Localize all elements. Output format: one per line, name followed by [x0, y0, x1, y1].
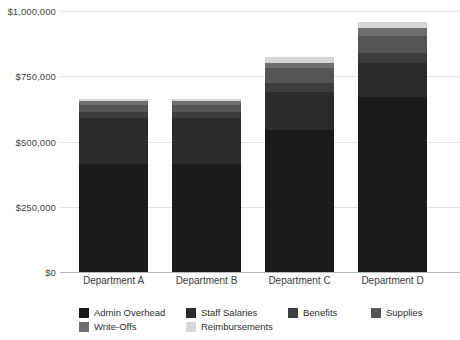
legend-swatch-icon: [186, 322, 196, 332]
bar-segment-write-offs[interactable]: [358, 28, 427, 36]
bar-segment-supplies[interactable]: [172, 105, 241, 111]
bar-segment-write-offs[interactable]: [265, 63, 334, 68]
legend-label: Admin Overhead: [94, 308, 165, 318]
bar-segment-admin-overhead[interactable]: [172, 164, 241, 272]
legend-item-staff-salaries[interactable]: Staff Salaries: [186, 307, 257, 319]
bar-segment-reimbursements[interactable]: [265, 57, 334, 63]
bar-segment-staff-salaries[interactable]: [79, 118, 148, 164]
legend-item-admin-overhead[interactable]: Admin Overhead: [79, 307, 165, 319]
y-axis-labels: $0$250,000$500,000$750,000$1,000,000: [0, 0, 56, 340]
bar-segment-benefits[interactable]: [358, 53, 427, 63]
x-axis-label-department-d: Department D: [338, 275, 448, 286]
gridline: [60, 11, 460, 12]
legend-label: Supplies: [386, 308, 422, 318]
bar-segment-benefits[interactable]: [172, 112, 241, 119]
bar-segment-benefits[interactable]: [79, 112, 148, 119]
bar-segment-supplies[interactable]: [79, 105, 148, 111]
plot-area: [60, 11, 460, 272]
x-axis-baseline: [60, 272, 460, 273]
y-axis-tick-label: $1,000,000: [7, 6, 56, 17]
legend-swatch-icon: [186, 308, 196, 318]
bar-segment-admin-overhead[interactable]: [358, 97, 427, 272]
legend-label: Reimbursements: [201, 322, 273, 332]
y-axis-tick-label: $750,000: [16, 71, 56, 82]
legend-swatch-icon: [288, 308, 298, 318]
bar-segment-write-offs[interactable]: [172, 101, 241, 106]
legend-item-write-offs[interactable]: Write-Offs: [79, 321, 136, 333]
bar-segment-benefits[interactable]: [265, 83, 334, 92]
legend-label: Write-Offs: [94, 322, 136, 332]
bar-segment-staff-salaries[interactable]: [172, 118, 241, 164]
stacked-bar-chart: $0$250,000$500,000$750,000$1,000,000 Dep…: [0, 0, 460, 340]
legend-label: Benefits: [303, 308, 337, 318]
legend-item-supplies[interactable]: Supplies: [371, 307, 422, 319]
bar-segment-supplies[interactable]: [358, 36, 427, 53]
bar-segment-staff-salaries[interactable]: [358, 63, 427, 97]
bar-segment-admin-overhead[interactable]: [265, 130, 334, 272]
legend-swatch-icon: [371, 308, 381, 318]
legend-item-benefits[interactable]: Benefits: [288, 307, 337, 319]
bar-segment-reimbursements[interactable]: [79, 99, 148, 101]
legend-swatch-icon: [79, 308, 89, 318]
bar-segment-write-offs[interactable]: [79, 101, 148, 106]
legend-item-reimbursements[interactable]: Reimbursements: [186, 321, 273, 333]
y-axis-tick-label: $0: [45, 267, 56, 278]
y-axis-tick-label: $500,000: [16, 136, 56, 147]
bar-segment-reimbursements[interactable]: [172, 99, 241, 101]
bar-segment-staff-salaries[interactable]: [265, 92, 334, 130]
chart-legend: Admin OverheadStaff SalariesBenefitsSupp…: [0, 306, 460, 340]
y-axis-tick-label: $250,000: [16, 201, 56, 212]
legend-label: Staff Salaries: [201, 308, 257, 318]
bar-segment-reimbursements[interactable]: [358, 22, 427, 28]
bar-segment-admin-overhead[interactable]: [79, 164, 148, 272]
bar-segment-supplies[interactable]: [265, 68, 334, 83]
legend-swatch-icon: [79, 322, 89, 332]
